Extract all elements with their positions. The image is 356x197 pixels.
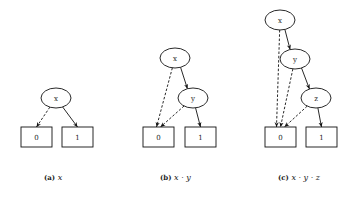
- terminal-node-0: 0: [265, 127, 296, 147]
- caption-a: (a) x: [44, 173, 62, 182]
- terminal-node-1: 1: [185, 127, 216, 147]
- edge-z-0-low: [285, 106, 308, 127]
- subfigure-a: x01: [21, 88, 93, 147]
- decision-node-x: x: [265, 10, 295, 30]
- caption-a-expr: x: [58, 173, 63, 182]
- terminal-node-1: 1: [306, 127, 337, 147]
- node-label: x: [278, 17, 282, 25]
- caption-c-tag: (c): [278, 173, 289, 182]
- edge-y-0-low: [281, 69, 293, 127]
- decision-node-y: y: [280, 49, 310, 69]
- subfigure-b: xy01: [143, 48, 216, 147]
- edge-x-y-high: [181, 67, 188, 88]
- decision-node-z: z: [301, 88, 331, 108]
- node-label: z: [314, 95, 318, 103]
- node-label: 1: [75, 134, 79, 142]
- decision-node-x: x: [41, 88, 71, 108]
- terminal-node-0: 0: [143, 127, 174, 147]
- caption-a-tag: (a): [44, 173, 55, 182]
- bdd-diagrams: x01xy01xyz01: [0, 0, 356, 197]
- node-label: 0: [34, 134, 38, 142]
- caption-c: (c) x · y · z: [278, 173, 320, 182]
- node-label: x: [54, 95, 58, 103]
- edge-x-1-high: [63, 107, 78, 127]
- node-label: 1: [319, 134, 323, 142]
- decision-node-y: y: [178, 88, 208, 108]
- edge-x-0-low: [277, 30, 280, 127]
- node-label: 0: [156, 134, 160, 142]
- edge-y-1-high: [196, 108, 201, 127]
- node-label: x: [173, 55, 177, 63]
- caption-b: (b) x · y: [160, 173, 191, 182]
- subfigure-c: xyz01: [265, 10, 337, 147]
- caption-b-tag: (b): [160, 173, 172, 182]
- edge-x-y-high: [285, 29, 290, 49]
- node-label: y: [190, 95, 195, 103]
- edge-z-1-high: [318, 108, 322, 127]
- caption-b-expr: x · y: [174, 173, 191, 182]
- edge-y-0-low: [161, 106, 185, 127]
- edge-x-0-low: [37, 107, 50, 127]
- node-label: 0: [278, 134, 282, 142]
- terminal-node-1: 1: [62, 127, 93, 147]
- caption-c-expr: x · y · z: [291, 173, 320, 182]
- decision-node-x: x: [160, 48, 190, 68]
- terminal-node-0: 0: [21, 127, 52, 147]
- node-label: 1: [198, 134, 202, 142]
- node-label: y: [292, 56, 297, 64]
- edge-y-z-high: [302, 68, 310, 89]
